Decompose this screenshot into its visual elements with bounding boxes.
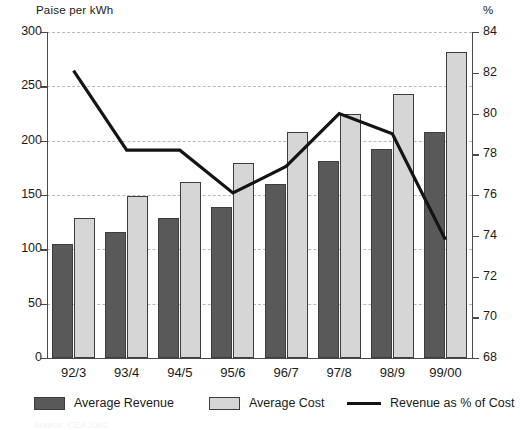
tick-label: 250 xyxy=(4,79,42,92)
tick-label: 80 xyxy=(483,107,520,120)
tick-label: 72 xyxy=(483,270,520,283)
legend-swatch-cost-icon xyxy=(209,397,240,410)
tick-label: 0 xyxy=(4,351,42,364)
chart-footnote: Source: CEA 2001 xyxy=(34,420,108,430)
axis-line xyxy=(473,317,479,318)
tick-label: 78 xyxy=(483,147,520,160)
legend-swatch-line-icon xyxy=(347,402,381,405)
tick-label: 96/7 xyxy=(258,366,314,379)
axis-line xyxy=(473,236,479,237)
axis-line xyxy=(47,32,48,359)
axis-line xyxy=(473,277,479,278)
legend-item-revenue-pct: Revenue as % of Cost xyxy=(347,396,514,410)
legend-swatch-revenue-icon xyxy=(34,397,65,410)
tick-label: 76 xyxy=(483,188,520,201)
tick-label: 82 xyxy=(483,66,520,79)
legend-label-revenue-pct: Revenue as % of Cost xyxy=(390,396,514,410)
tick-label: 150 xyxy=(4,188,42,201)
legend-label-average-cost: Average Cost xyxy=(249,396,325,410)
tick-label: 95/6 xyxy=(205,366,261,379)
axis-line xyxy=(47,358,472,359)
tick-label: 98/9 xyxy=(364,366,420,379)
axis-line xyxy=(473,73,479,74)
legend-label-average-revenue: Average Revenue xyxy=(74,396,174,410)
tick-label: 68 xyxy=(483,351,520,364)
axis-line xyxy=(473,154,479,155)
tick-label: 84 xyxy=(483,25,520,38)
chart-legend: Average Revenue Average Cost Revenue as … xyxy=(0,396,520,418)
tick-label: 200 xyxy=(4,134,42,147)
tick-label: 97/8 xyxy=(311,366,367,379)
legend-item-average-revenue: Average Revenue xyxy=(34,396,174,410)
tick-label: 92/3 xyxy=(46,366,102,379)
tick-label: 74 xyxy=(483,229,520,242)
tick-label: 300 xyxy=(4,25,42,38)
tick-label: 94/5 xyxy=(152,366,208,379)
legend-item-average-cost: Average Cost xyxy=(209,396,325,410)
tick-label: 100 xyxy=(4,242,42,255)
axis-line xyxy=(473,32,479,33)
tick-label: 99/00 xyxy=(417,366,473,379)
tick-label: 93/4 xyxy=(99,366,155,379)
revenue-pct-line xyxy=(74,71,446,240)
axis-line xyxy=(473,195,479,196)
axis-line xyxy=(473,114,479,115)
tick-label: 70 xyxy=(483,310,520,323)
tick-label: 50 xyxy=(4,297,42,310)
axis-line xyxy=(473,358,479,359)
